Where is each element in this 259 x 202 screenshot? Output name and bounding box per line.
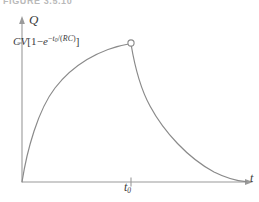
cv-prefix: CV [13, 35, 27, 47]
exp-rc: RC [63, 34, 73, 43]
bracket-close: ] [76, 35, 80, 47]
x-axis-label: t [250, 171, 253, 186]
x-axis-tick-label-t0: t0 [124, 180, 131, 195]
peak-marker-icon [128, 40, 134, 46]
capacitor-charge-plot [0, 0, 259, 202]
exponent: −t0/(RC) [48, 34, 76, 43]
x-axis [22, 179, 253, 185]
charging-curve [22, 44, 131, 183]
y-axis-label: Q [29, 12, 38, 28]
y-axis-tick-label-max: CV[1−e−t0/(RC)] [13, 35, 80, 47]
discharging-curve [131, 44, 246, 182]
t0-subscript: 0 [127, 186, 131, 195]
figure-container: FIGURE 3.5.10 Q t t0 C [0, 0, 259, 202]
